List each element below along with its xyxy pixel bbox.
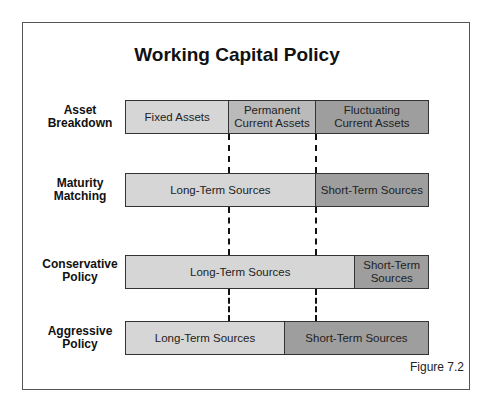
dashed-connector-line bbox=[315, 207, 317, 255]
segment-fixed-assets: Fixed Assets bbox=[126, 101, 229, 133]
dashed-connector-line bbox=[315, 289, 317, 321]
segment-long-term-sources: Long-Term Sources bbox=[126, 174, 316, 206]
segment-text: Long-Term Sources bbox=[170, 184, 270, 197]
row-label-line: Policy bbox=[30, 271, 130, 284]
segment-text: Permanent bbox=[234, 104, 309, 117]
segment-long-term-sources: Long-Term Sources bbox=[126, 256, 355, 288]
bar-aggressive-policy: Long-Term Sources Short-Term Sources bbox=[125, 321, 429, 355]
row-label-line: Breakdown bbox=[30, 117, 130, 130]
segment-permanent-current-assets: Permanent Current Assets bbox=[229, 101, 315, 133]
bar-maturity-matching: Long-Term Sources Short-Term Sources bbox=[125, 173, 429, 207]
dashed-connector-line bbox=[228, 207, 230, 255]
dashed-connector-line bbox=[228, 134, 230, 173]
segment-text: Current Assets bbox=[334, 117, 409, 130]
dashed-connector-line bbox=[315, 134, 317, 173]
segment-text: Long-Term Sources bbox=[155, 332, 255, 345]
bar-conservative-policy: Long-Term Sources Short-Term Sources bbox=[125, 255, 429, 289]
segment-text: Sources bbox=[363, 272, 420, 285]
segment-text: Short-Term Sources bbox=[321, 184, 423, 197]
segment-text: Short-Term Sources bbox=[305, 332, 407, 345]
row-label-line: Policy bbox=[30, 338, 130, 351]
segment-text: Short-Term bbox=[363, 259, 420, 272]
row-label-asset-breakdown: Asset Breakdown bbox=[30, 104, 130, 130]
diagram-title: Working Capital Policy bbox=[0, 44, 474, 66]
row-label-aggressive-policy: Aggressive Policy bbox=[30, 325, 130, 351]
row-label-line: Matching bbox=[30, 190, 130, 203]
row-label-conservative-policy: Conservative Policy bbox=[30, 258, 130, 284]
segment-short-term-sources: Short-Term Sources bbox=[316, 174, 428, 206]
segment-text: Current Assets bbox=[234, 117, 309, 130]
segment-text: Fixed Assets bbox=[145, 111, 210, 124]
dashed-connector-line bbox=[228, 289, 230, 321]
segment-fluctuating-current-assets: Fluctuating Current Assets bbox=[316, 101, 428, 133]
row-label-maturity-matching: Maturity Matching bbox=[30, 177, 130, 203]
bar-asset-breakdown: Fixed Assets Permanent Current Assets Fl… bbox=[125, 100, 429, 134]
segment-short-term-sources: Short-Term Sources bbox=[285, 322, 428, 354]
segment-short-term-sources: Short-Term Sources bbox=[355, 256, 428, 288]
segment-text: Long-Term Sources bbox=[190, 266, 290, 279]
figure-label: Figure 7.2 bbox=[410, 360, 464, 374]
segment-text: Fluctuating bbox=[334, 104, 409, 117]
segment-long-term-sources: Long-Term Sources bbox=[126, 322, 285, 354]
